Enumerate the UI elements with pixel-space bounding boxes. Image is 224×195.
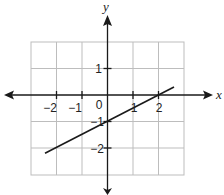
plotted-line [45,87,174,153]
y-tick-label: −1 [90,115,104,129]
origin-label: 0 [96,98,103,112]
y-tick-label: −2 [90,142,104,156]
x-tick-label: −1 [68,101,82,115]
x-tick-label: 1 [131,101,138,115]
x-tick-label: 2 [156,101,163,115]
y-axis-label: y [101,0,109,14]
coordinate-plane: x y −2 −1 0 1 2 1 −1 −2 [0,0,224,195]
y-axis [104,22,112,192]
x-axis-label: x [215,87,222,102]
x-tick-label: −2 [43,101,57,115]
y-tick-label: 1 [95,62,102,76]
